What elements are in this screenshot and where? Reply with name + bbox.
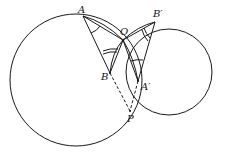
point-P xyxy=(129,110,131,112)
segment-OB xyxy=(110,40,123,73)
label-B: B xyxy=(101,72,108,82)
label-A-prime: A′ xyxy=(141,82,151,92)
label-P: P xyxy=(127,114,134,124)
label-A: A xyxy=(78,5,85,15)
point-B xyxy=(109,72,111,74)
point-A' xyxy=(137,80,139,82)
segment-B'A' xyxy=(138,22,155,81)
geometry-diagram: A B′ O B A′ P xyxy=(0,0,225,160)
diagram-svg xyxy=(0,0,225,160)
point-O xyxy=(122,39,125,42)
label-O: O xyxy=(120,27,128,37)
right-circle xyxy=(126,29,212,115)
segment-OA' xyxy=(123,40,138,81)
angle-mark-A xyxy=(91,26,100,33)
label-B-prime: B′ xyxy=(153,9,163,19)
